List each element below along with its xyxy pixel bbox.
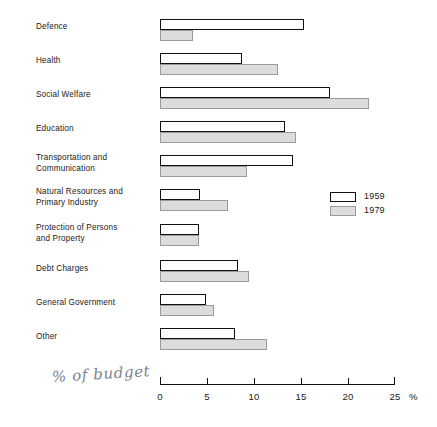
bar-1979-social-welfare	[160, 98, 369, 109]
legend: 1959 1979	[330, 192, 410, 220]
bar-1979-general-government	[160, 305, 214, 316]
x-axis-tick-15	[301, 378, 302, 385]
bar-1979-defence	[160, 30, 193, 41]
bar-1959-health	[160, 53, 242, 64]
category-label-transportation: Transportation and Communication	[36, 153, 156, 174]
x-axis-tick-label-20: 20	[336, 391, 360, 402]
bar-1979-transportation	[160, 166, 247, 177]
bar-1979-other	[160, 339, 267, 350]
legend-entry-1959: 1959	[330, 192, 410, 204]
x-axis-tick-label-15: 15	[289, 391, 313, 402]
x-axis-line	[160, 384, 395, 385]
legend-label-1959: 1959	[364, 191, 385, 201]
category-label-health: Health	[36, 56, 156, 67]
handwritten-axis-annotation: % of budget	[51, 362, 150, 386]
bar-1959-social-welfare	[160, 87, 330, 98]
legend-swatch-1959-icon	[330, 192, 356, 202]
x-axis-tick-label-0: 0	[148, 391, 172, 402]
bar-1959-education	[160, 121, 285, 132]
legend-label-1979: 1979	[364, 205, 385, 215]
bar-1959-other	[160, 328, 235, 339]
x-axis-tick-25	[394, 377, 395, 385]
category-label-debt-charges: Debt Charges	[36, 264, 156, 275]
x-axis-tick-20	[348, 378, 349, 385]
category-label-general-government: General Government	[36, 298, 156, 309]
budget-bar-chart: Defence Health Social Welfare Education …	[0, 0, 437, 427]
bar-1959-natural-resources	[160, 189, 200, 200]
x-axis-unit-label: %	[409, 391, 417, 402]
x-axis-tick-label-5: 5	[195, 391, 219, 402]
category-label-education: Education	[36, 124, 156, 135]
legend-entry-1979: 1979	[330, 206, 410, 218]
x-axis-tick-10	[254, 378, 255, 385]
x-axis-tick-label-10: 10	[242, 391, 266, 402]
category-label-social-welfare: Social Welfare	[36, 90, 156, 101]
x-axis-tick-5	[207, 378, 208, 385]
category-label-natural-resources: Natural Resources and Primary Industry	[36, 187, 156, 208]
bar-1979-debt-charges	[160, 271, 249, 282]
bar-1959-transportation	[160, 155, 293, 166]
bar-1979-education	[160, 132, 296, 143]
x-axis-tick-0	[160, 377, 161, 385]
category-label-protection-persons: Protection of Persons and Property	[36, 223, 156, 244]
bar-1959-protection-persons	[160, 224, 199, 235]
bar-1979-health	[160, 64, 278, 75]
x-axis-tick-label-25: 25	[383, 391, 407, 402]
category-label-other: Other	[36, 332, 156, 343]
legend-swatch-1979-icon	[330, 206, 356, 216]
category-label-defence: Defence	[36, 22, 156, 33]
bar-1979-protection-persons	[160, 235, 199, 246]
bar-1979-natural-resources	[160, 200, 228, 211]
bar-1959-debt-charges	[160, 260, 238, 271]
bar-1959-defence	[160, 19, 304, 30]
bar-1959-general-government	[160, 294, 206, 305]
